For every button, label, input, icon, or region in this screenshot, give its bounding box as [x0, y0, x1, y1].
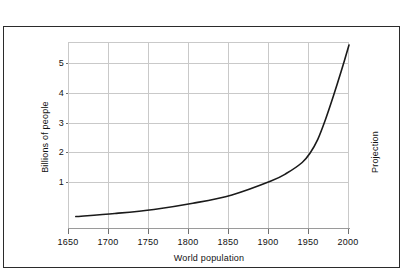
plot-area	[68, 42, 349, 228]
x-tick-mark-1800	[188, 229, 189, 234]
x-tick-label-1850: 1850	[208, 237, 248, 247]
y-tick-label-5: 5	[54, 58, 64, 68]
y-tick-label-3: 3	[54, 118, 64, 128]
x-tick-label-1700: 1700	[88, 237, 128, 247]
x-tick-label-1800: 1800	[168, 237, 208, 247]
x-axis-title: World population	[68, 253, 350, 263]
y-tick-label-4: 4	[54, 88, 64, 98]
figure-frame: 1 2 3 4 5 1650 1700 1750 1800 1850 1900 …	[3, 26, 400, 268]
x-tick-mark-1750	[148, 229, 149, 234]
x-tick-mark-1700	[108, 229, 109, 234]
figure-container: 1 2 3 4 5 1650 1700 1750 1800 1850 1900 …	[0, 0, 409, 278]
x-tick-mark-1900	[268, 229, 269, 234]
x-tick-label-2000: 2000	[328, 237, 368, 247]
x-tick-mark-2000	[348, 229, 349, 234]
x-tick-label-1900: 1900	[248, 237, 288, 247]
x-tick-mark-1850	[228, 229, 229, 234]
x-tick-label-1950: 1950	[288, 237, 328, 247]
x-tick-mark-1950	[308, 229, 309, 234]
x-tick-label-1750: 1750	[128, 237, 168, 247]
x-tick-mark-1650	[68, 229, 69, 234]
projection-annotation: Projection	[370, 102, 380, 202]
x-tick-label-1650: 1650	[48, 237, 88, 247]
population-curve	[68, 42, 349, 228]
y-tick-label-1: 1	[54, 177, 64, 187]
y-tick-label-2: 2	[54, 147, 64, 157]
y-axis-title: Billions of people	[40, 87, 50, 187]
